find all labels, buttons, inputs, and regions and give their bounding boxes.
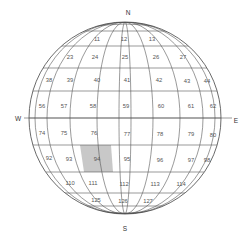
cell-111: 111 [89, 180, 98, 186]
cell-79: 79 [188, 131, 194, 137]
cell-42: 42 [156, 77, 162, 83]
cell-110: 110 [65, 180, 74, 186]
west-label: W [15, 115, 21, 122]
cell-57: 57 [61, 103, 67, 109]
cell-13: 13 [149, 36, 155, 42]
cell-62: 62 [210, 103, 216, 109]
cell-76: 76 [91, 130, 97, 136]
cell-38: 38 [46, 77, 52, 83]
cell-96: 96 [157, 157, 163, 163]
cell-112: 112 [119, 181, 128, 187]
cell-127: 127 [143, 198, 153, 204]
cell-95: 95 [124, 156, 130, 162]
cell-92: 92 [46, 155, 52, 161]
south-label: S [123, 225, 127, 232]
cell-12: 12 [121, 36, 127, 42]
cell-97: 97 [188, 157, 194, 163]
cell-75: 75 [61, 130, 67, 136]
cell-74: 74 [39, 130, 45, 136]
cell-77: 77 [124, 131, 130, 137]
cell-56: 56 [39, 103, 45, 109]
cell-98: 98 [204, 157, 210, 163]
north-label: N [126, 9, 131, 16]
cell-23: 23 [67, 54, 73, 60]
cell-43: 43 [184, 78, 190, 84]
cell-60: 60 [158, 103, 164, 109]
cell-41: 41 [124, 77, 130, 83]
cell-80: 80 [210, 132, 216, 138]
cell-44: 44 [204, 78, 210, 84]
cell-93: 93 [66, 156, 72, 162]
cell-114: 114 [176, 181, 185, 187]
cell-39: 39 [67, 77, 73, 83]
east-label: E [234, 117, 238, 124]
cell-113: 113 [150, 181, 159, 187]
cell-59: 59 [123, 103, 129, 109]
cell-125: 125 [91, 197, 101, 203]
cell-126: 126 [118, 198, 128, 204]
cell-26: 26 [153, 54, 159, 60]
cell-25: 25 [122, 54, 128, 60]
cell-94: 94 [94, 156, 100, 162]
globe-grid-diagram: N S W E 11 12 13 23 24 25 26 27 38 39 40… [0, 0, 250, 237]
cell-24: 24 [92, 54, 98, 60]
cell-40: 40 [94, 77, 100, 83]
cell-27: 27 [180, 54, 186, 60]
cell-58: 58 [90, 103, 96, 109]
cell-11: 11 [94, 36, 100, 42]
cell-61: 61 [188, 103, 194, 109]
cell-78: 78 [157, 131, 163, 137]
